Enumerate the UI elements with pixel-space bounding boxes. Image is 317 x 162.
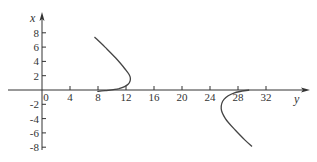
vertical-tick-label: 6 bbox=[34, 41, 40, 53]
horizontal-tick-label: 8 bbox=[95, 91, 101, 103]
curves bbox=[95, 37, 253, 146]
vertical-tick-label: -6 bbox=[30, 127, 40, 139]
vertical-tick-label: 8 bbox=[34, 27, 40, 39]
parametric-plot: 0481216202428328642-2-4-6-8 x y bbox=[0, 0, 317, 162]
vertical-tick-label: 4 bbox=[34, 55, 40, 67]
curve-upper bbox=[95, 37, 131, 91]
plot-canvas: 0481216202428328642-2-4-6-8 x y bbox=[0, 0, 317, 162]
horizontal-tick-label: 32 bbox=[261, 91, 272, 103]
vertical-tick-label: -2 bbox=[30, 98, 39, 110]
horizontal-tick-label: 16 bbox=[149, 91, 161, 103]
horizontal-tick-label: 24 bbox=[205, 91, 217, 103]
horizontal-tick-label: 4 bbox=[67, 91, 73, 103]
vertical-tick-label: -8 bbox=[30, 141, 40, 153]
horizontal-axis-label: y bbox=[293, 92, 300, 106]
horizontal-tick-label: 20 bbox=[177, 91, 189, 103]
vertical-tick-label: -4 bbox=[30, 113, 40, 125]
vertical-axis-label: x bbox=[29, 11, 36, 25]
vertical-tick-label: 2 bbox=[34, 70, 40, 82]
axes bbox=[8, 12, 310, 150]
horizontal-tick-label: 12 bbox=[121, 91, 132, 103]
horizontal-tick-label: 0 bbox=[43, 91, 49, 103]
